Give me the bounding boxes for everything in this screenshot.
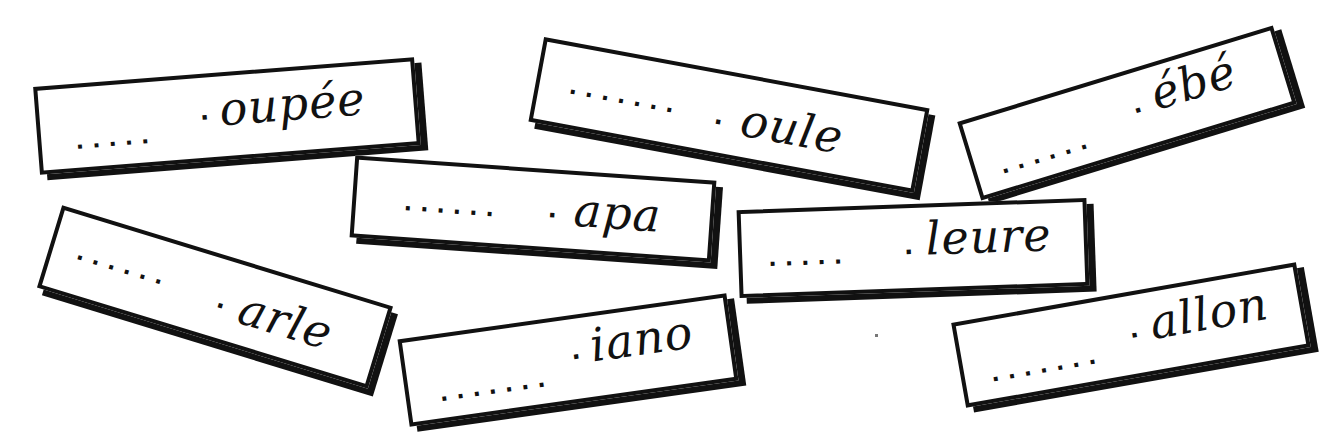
lead-dot: . [213,285,230,314]
word-card-iano: ....... . iano [397,293,738,426]
blank-dots[interactable]: ....... [989,342,1106,387]
stray-ink-mark [875,334,878,337]
blank-dots[interactable]: ....... [567,74,684,119]
word-ending: allon [1146,280,1271,346]
lead-dot: . [547,195,558,224]
lead-dot: . [712,102,726,131]
blank-dots[interactable]: ...... [74,239,175,292]
word-card-apa: ...... . apa [350,155,717,262]
word-ending: leure [925,211,1052,261]
blank-dots[interactable]: ..... [75,123,159,154]
word-card-ebe: ...... . ébé [957,26,1297,201]
lead-dot: . [199,97,210,126]
word-ending: ébé [1145,48,1242,117]
word-ending: oule [737,97,847,161]
word-ending: oupée [218,75,367,132]
word-ending: iano [587,309,696,369]
word-ending: apa [572,187,662,239]
blank-dots[interactable]: ...... [403,190,503,222]
word-card-leure: ..... . leure [737,198,1090,298]
lead-dot: . [1127,315,1141,344]
word-ending: arle [234,285,339,357]
blank-dots[interactable]: ....... [438,365,555,406]
word-card-oule: ....... . oule [528,37,929,193]
word-card-arle: ...... . arle [37,205,393,388]
lead-dot: . [1128,90,1145,119]
blank-dots[interactable]: ..... [768,243,851,271]
blank-dots[interactable]: ...... [997,126,1098,179]
lead-dot: . [569,336,582,365]
lead-dot: . [903,232,913,260]
